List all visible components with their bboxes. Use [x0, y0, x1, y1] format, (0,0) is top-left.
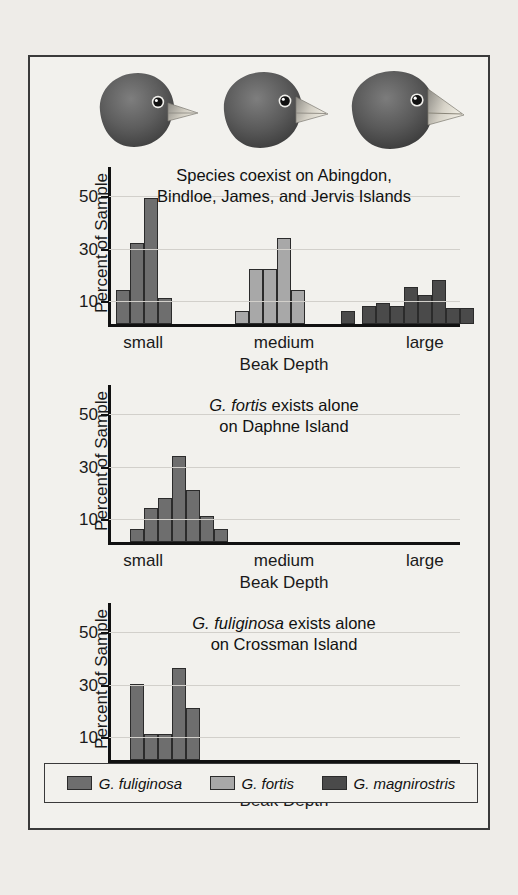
bar: [446, 308, 460, 324]
finch-small-beak: [82, 63, 200, 155]
bar: [418, 295, 432, 324]
gridline-10: [108, 519, 460, 520]
finch-large-beak: [338, 63, 468, 155]
y-tick-50: [101, 414, 109, 416]
x-category-labels-2: smallmediumlarge: [108, 551, 460, 573]
plot-area-2: 103050: [108, 385, 460, 545]
bar: [263, 269, 277, 324]
legend-label: G. fortis: [242, 775, 295, 792]
figure-frame: Percent of Sample 103050 Species coexist…: [28, 55, 490, 830]
finch-medium-beak: [208, 63, 330, 155]
gridline-10: [108, 301, 460, 302]
y-tick-50: [101, 196, 109, 198]
gridline-30: [108, 249, 460, 250]
y-tick-10: [101, 737, 109, 739]
y-axis-label-wrap-3: Percent of Sample: [36, 599, 62, 759]
y-tick-30: [101, 467, 109, 469]
plot-area-1: 103050: [108, 167, 460, 327]
plot-area-3: 103050: [108, 603, 460, 763]
gridline-50: [108, 196, 460, 197]
x-category-labels-1: smallmediumlarge: [108, 333, 460, 355]
legend-item: G. fortis: [210, 775, 295, 792]
legend-label: G. magnirostris: [354, 775, 456, 792]
bar: [172, 456, 186, 542]
y-axis-label-wrap-2: Percent of Sample: [36, 381, 62, 541]
x-category-small: small: [123, 333, 163, 353]
bar: [214, 529, 228, 542]
bar: [390, 306, 404, 324]
bar: [144, 508, 158, 542]
bar: [130, 243, 144, 324]
bar: [404, 287, 418, 324]
x-category-medium: medium: [254, 333, 314, 353]
y-tick-30: [101, 249, 109, 251]
bar: [130, 684, 144, 760]
bar: [130, 529, 144, 542]
x-axis-1: [108, 324, 460, 327]
figure-page: Percent of Sample 103050 Species coexist…: [0, 0, 518, 895]
gridline-10: [108, 737, 460, 738]
gridline-50: [108, 632, 460, 633]
y-tick-30: [101, 685, 109, 687]
bar: [249, 269, 263, 324]
x-category-large: large: [406, 333, 444, 353]
bar: [235, 311, 249, 324]
legend-item: G. fuliginosa: [67, 775, 182, 792]
x-category-medium: medium: [254, 551, 314, 571]
y-tick-label-30: 30: [79, 240, 98, 260]
gridline-30: [108, 685, 460, 686]
y-tick-label-30: 30: [79, 458, 98, 478]
x-axis-label-1: Beak Depth: [108, 355, 460, 375]
legend: G. fuliginosaG. fortisG. magnirostris: [44, 763, 478, 803]
x-category-large: large: [406, 551, 444, 571]
y-tick-10: [101, 301, 109, 303]
legend-label: G. fuliginosa: [99, 775, 182, 792]
bar: [362, 306, 376, 324]
gridline-50: [108, 414, 460, 415]
legend-swatch-icon: [67, 776, 92, 790]
legend-items: G. fuliginosaG. fortisG. magnirostris: [45, 764, 477, 802]
y-tick-label-50: 50: [79, 623, 98, 643]
bar: [291, 290, 305, 324]
y-tick-label-10: 10: [79, 728, 98, 748]
bar: [341, 311, 355, 324]
y-tick-50: [101, 632, 109, 634]
legend-swatch-icon: [322, 776, 347, 790]
gridline-30: [108, 467, 460, 468]
y-axis-label-wrap-1: Percent of Sample: [36, 163, 62, 323]
y-tick-label-50: 50: [79, 187, 98, 207]
chart-panel-1: Percent of Sample 103050 Species coexist…: [30, 157, 492, 375]
chart-panel-2: Percent of Sample 103050 G. fortis exist…: [30, 375, 492, 593]
x-axis-label-2: Beak Depth: [108, 573, 460, 593]
x-axis-2: [108, 542, 460, 545]
bar: [116, 290, 130, 324]
y-tick-10: [101, 519, 109, 521]
bar: [172, 668, 186, 760]
legend-swatch-icon: [210, 776, 235, 790]
bar: [376, 303, 390, 324]
bar: [277, 238, 291, 324]
bar: [144, 198, 158, 324]
finch-illustration-row: [30, 63, 488, 155]
y-tick-label-50: 50: [79, 405, 98, 425]
legend-item: G. magnirostris: [322, 775, 456, 792]
bar: [186, 490, 200, 542]
y-tick-label-10: 10: [79, 510, 98, 530]
x-category-small: small: [123, 551, 163, 571]
bar: [460, 308, 474, 324]
bar: [186, 708, 200, 760]
y-tick-label-30: 30: [79, 676, 98, 696]
y-tick-label-10: 10: [79, 292, 98, 312]
